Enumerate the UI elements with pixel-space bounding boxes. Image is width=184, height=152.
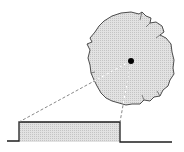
pulse-fill bbox=[19, 122, 120, 142]
center-point bbox=[128, 58, 134, 64]
rectangular-pulse bbox=[7, 122, 172, 142]
diagram-canvas bbox=[0, 0, 184, 152]
